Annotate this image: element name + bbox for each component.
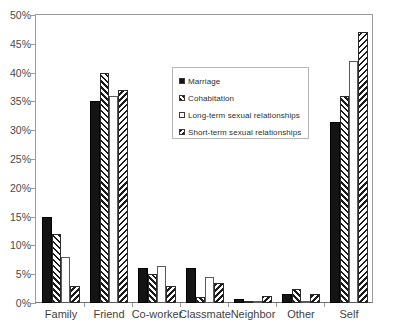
bar-group (282, 15, 320, 303)
bar (340, 96, 349, 303)
bar (109, 96, 118, 303)
legend-label: Cohabitation (188, 94, 234, 103)
x-axis-label-other: Other (287, 308, 315, 320)
bar (253, 301, 262, 303)
bar (166, 286, 175, 303)
legend-item[interactable]: Long-term sexual relationships (179, 107, 308, 123)
bar (90, 101, 99, 303)
bar (301, 301, 310, 303)
bar (349, 61, 358, 303)
legend-swatch-icon (179, 95, 185, 101)
x-axis-label-neighbor: Neighbor (231, 308, 276, 320)
bar (292, 289, 301, 303)
bar (196, 297, 205, 303)
x-axis-category-labels: FamilyFriendCo-workerClassmateNeighborOt… (0, 308, 395, 330)
bar (52, 234, 61, 303)
bar (330, 122, 339, 303)
chart-legend: MarriageCohabitationLong-term sexual rel… (172, 67, 309, 139)
legend-label: Marriage (188, 77, 220, 86)
legend-label: Long-term sexual relationships (188, 111, 300, 120)
bar (42, 217, 51, 303)
bar-series-layer (36, 15, 372, 303)
bar (118, 90, 127, 303)
x-axis-tick (132, 303, 133, 307)
bar-group (138, 15, 176, 303)
bar (244, 301, 253, 303)
legend-item[interactable]: Cohabitation (179, 90, 308, 106)
bar (310, 294, 319, 303)
bar-group (90, 15, 128, 303)
bar (262, 296, 271, 303)
x-axis-label-self: Self (340, 308, 359, 320)
legend-swatch-icon (179, 129, 185, 135)
bar-group (186, 15, 224, 303)
legend-swatch-icon (179, 78, 185, 84)
bar (282, 294, 291, 303)
legend-item[interactable]: Marriage (179, 73, 308, 89)
bar (138, 268, 147, 303)
bar-group (330, 15, 368, 303)
bar (148, 274, 157, 303)
bar (70, 286, 79, 303)
bar-chart: 0%5%10%15%20%25%30%35%40%45%50% FamilyFr… (0, 0, 395, 333)
bar (234, 299, 243, 303)
y-axis-tick (31, 303, 36, 304)
legend-label: Short-term sexual relationships (188, 128, 301, 137)
x-axis-tick (84, 303, 85, 307)
x-axis-tick (324, 303, 325, 307)
bar (157, 266, 166, 303)
bar (214, 283, 223, 303)
x-axis-label-co-worker: Co-worker (132, 308, 183, 320)
x-axis-tick (276, 303, 277, 307)
legend-item[interactable]: Short-term sexual relationships (179, 124, 308, 140)
bar (61, 257, 70, 303)
x-axis-label-classmate: Classmate (179, 308, 231, 320)
x-axis-tick (228, 303, 229, 307)
bar (358, 32, 367, 303)
x-axis-label-family: Family (45, 308, 77, 320)
x-axis-label-friend: Friend (93, 308, 124, 320)
bar (186, 268, 195, 303)
x-axis-tick (180, 303, 181, 307)
bar-group (42, 15, 80, 303)
bar (205, 277, 214, 303)
bar-group (234, 15, 272, 303)
legend-swatch-icon (179, 112, 185, 118)
bar (100, 73, 109, 303)
